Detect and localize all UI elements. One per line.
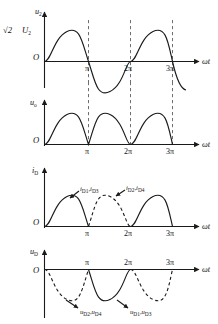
amplitude-label-u2: √2 U2 xyxy=(3,25,31,36)
tick-3pi-uo: 3π xyxy=(166,147,174,156)
annotation-label-ud13: uD1,uD3 xyxy=(130,308,152,317)
x-axis-label-uo: ωt xyxy=(202,140,211,149)
origin-label-id: O xyxy=(33,217,39,227)
annotation-arrow-id24 xyxy=(116,190,125,196)
annotation-label-id24: iD2,iD4 xyxy=(126,184,145,193)
tick-pi-u2: π xyxy=(85,64,89,73)
x-axis-label-ud: ωt xyxy=(202,265,211,274)
panel-id: iD O π 2π 3π ωt iD1,iD3 iD2,iD4 xyxy=(32,166,211,238)
tick-3pi-ud: 3π xyxy=(166,258,174,267)
tick-pi-ud: π xyxy=(85,258,89,267)
tick-pi-id: π xyxy=(85,229,89,238)
y-axis-label-id: iD xyxy=(32,166,38,176)
curve-ud24 xyxy=(45,270,89,301)
tick-3pi-id: 3π xyxy=(166,229,174,238)
panel-ud: uD O π 2π 3π ωt uD2,uD4 uD1,uD3 xyxy=(30,247,211,318)
origin-label-u2: O xyxy=(33,52,39,62)
annotation-arrow-ud13 xyxy=(117,300,128,308)
curve-id13 xyxy=(45,195,89,226)
y-axis-label-ud: uD xyxy=(30,247,38,257)
annotation-label-id13: iD1,iD3 xyxy=(80,185,99,194)
y-axis-label-u2: u2 xyxy=(35,7,42,17)
waveform-figure: u2 √2 U2 O π 2π 3π ωt uo O π 2π 3π ωt xyxy=(0,0,218,324)
tick-pi-uo: π xyxy=(85,147,89,156)
panel-u2: u2 √2 U2 O π 2π 3π ωt xyxy=(3,7,211,93)
tick-2pi-id: 2π xyxy=(124,229,132,238)
svg-text:U2: U2 xyxy=(22,25,31,36)
origin-label-ud: O xyxy=(33,265,39,275)
x-axis-label-id: ωt xyxy=(202,222,211,231)
tick-3pi-u2: 3π xyxy=(166,64,174,73)
curve-id13-b xyxy=(131,195,173,226)
svg-text:√2: √2 xyxy=(3,25,13,35)
x-axis-label-u2: ωt xyxy=(202,57,211,66)
curve-ud13 xyxy=(89,270,131,301)
curve-id24 xyxy=(89,195,131,226)
panel-uo: uo O π 2π 3π ωt xyxy=(30,82,211,156)
annotation-arrow-id13 xyxy=(70,191,79,198)
curve-uo xyxy=(45,113,173,144)
tick-2pi-u2: 2π xyxy=(124,64,132,73)
annotation-label-ud24: uD2,uD4 xyxy=(80,308,102,317)
tick-2pi-ud: 2π xyxy=(124,258,132,267)
curve-ud24-b xyxy=(131,270,173,301)
y-axis-label-uo: uo xyxy=(30,98,37,108)
tick-2pi-uo: 2π xyxy=(124,147,132,156)
origin-label-uo: O xyxy=(33,135,39,145)
